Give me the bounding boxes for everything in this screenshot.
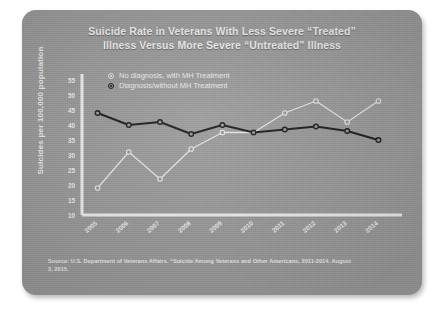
x-axis-tick-label: 2005: [83, 219, 99, 234]
data-point: [314, 124, 319, 129]
y-axis-tick-label: 40: [68, 122, 76, 129]
data-point: [376, 138, 381, 143]
series-line: [98, 101, 379, 188]
data-point: [314, 99, 319, 104]
data-point: [220, 123, 225, 128]
y-axis-tick-label: 50: [68, 92, 76, 99]
x-axis-tick-label: 2010: [239, 219, 255, 234]
axis-lines: [82, 74, 402, 215]
chart-series-no-diagnosis: [95, 99, 380, 191]
svg-text:2013: 2013: [332, 219, 348, 234]
x-axis-tick-label: 2006: [114, 219, 130, 234]
x-axis-tick-label: 2013: [332, 219, 348, 234]
data-point: [283, 127, 288, 132]
slide-card: Suicide Rate in Veterans With Less Sever…: [22, 10, 422, 295]
x-axis-tick-label: 2012: [301, 219, 317, 234]
source-note: Source: U.S. Department of Veterans Affa…: [48, 257, 398, 273]
y-axis-tick-label: 30: [68, 152, 76, 159]
plot-area: 1015202530354045505520052006200720082009…: [22, 10, 422, 295]
data-point: [345, 120, 350, 125]
svg-text:2005: 2005: [83, 219, 99, 234]
y-axis-tick-label: 15: [68, 197, 76, 204]
svg-text:2010: 2010: [239, 219, 255, 234]
svg-text:2009: 2009: [208, 219, 224, 234]
data-point: [251, 130, 256, 135]
data-point: [220, 130, 225, 135]
svg-text:2012: 2012: [301, 219, 317, 234]
source-note-line-2: 3, 2015.: [48, 265, 398, 273]
data-point: [189, 147, 194, 152]
x-axis-tick-label: 2011: [270, 219, 285, 234]
x-axis-tick-label: 2008: [176, 219, 192, 234]
y-axis-tick-label: 55: [68, 77, 76, 84]
y-axis-tick-label: 35: [68, 137, 76, 144]
x-axis-tick-label: 2014: [364, 219, 380, 234]
svg-text:2008: 2008: [176, 219, 192, 234]
data-point: [95, 186, 100, 191]
svg-text:2011: 2011: [270, 219, 285, 234]
data-point: [158, 177, 163, 182]
data-point: [127, 150, 132, 155]
y-axis-tick-label: 25: [68, 167, 76, 174]
svg-text:2014: 2014: [364, 219, 380, 234]
data-point: [158, 120, 163, 125]
svg-text:2006: 2006: [114, 219, 130, 234]
data-point: [283, 111, 288, 116]
x-axis-tick-label: 2007: [145, 219, 161, 234]
source-note-line-1: Source: U.S. Department of Veterans Affa…: [48, 257, 398, 265]
y-axis-tick-label: 20: [68, 182, 76, 189]
x-axis-tick-label: 2009: [208, 219, 224, 234]
data-point: [189, 132, 194, 137]
data-point: [95, 111, 100, 116]
data-point: [345, 129, 350, 134]
data-point: [127, 123, 132, 128]
svg-text:2007: 2007: [145, 219, 161, 234]
line-chart: 1015202530354045505520052006200720082009…: [22, 10, 422, 295]
y-axis-tick-label: 10: [68, 212, 76, 219]
y-axis-tick-label: 45: [68, 107, 76, 114]
series-line: [98, 113, 379, 140]
data-point: [376, 99, 381, 104]
